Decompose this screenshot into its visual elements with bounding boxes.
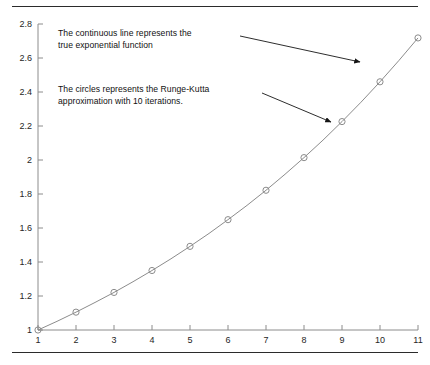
y-tick-label: 1.2 <box>6 291 32 301</box>
y-tick-label: 2.6 <box>6 53 32 63</box>
x-tick-label: 4 <box>140 335 164 345</box>
x-tick-label: 7 <box>254 335 278 345</box>
axes <box>38 24 418 330</box>
x-tick-label: 10 <box>368 335 392 345</box>
x-tick-label: 9 <box>330 335 354 345</box>
x-tick-label: 8 <box>292 335 316 345</box>
x-axis-ticks <box>38 325 418 330</box>
figure-container: 11.21.41.61.822.22.42.62.8 1234567891011… <box>0 0 430 365</box>
x-tick-label: 5 <box>178 335 202 345</box>
y-tick-label: 1 <box>6 325 32 335</box>
y-tick-label: 2.4 <box>6 87 32 97</box>
y-tick-label: 1.6 <box>6 223 32 233</box>
x-tick-label: 3 <box>102 335 126 345</box>
arrow-to-circle <box>262 93 331 122</box>
x-tick-label: 6 <box>216 335 240 345</box>
y-tick-label: 2 <box>6 155 32 165</box>
exponential-runge-kutta-plot <box>0 0 430 365</box>
annotation-circle-markers: The circles represents the Runge-Kutta a… <box>58 84 254 107</box>
y-tick-label: 1.8 <box>6 189 32 199</box>
y-tick-label: 1.4 <box>6 257 32 267</box>
x-tick-label: 1 <box>26 335 50 345</box>
arrow-to-line <box>240 36 360 62</box>
x-tick-label: 2 <box>64 335 88 345</box>
annotation-arrows <box>240 36 360 122</box>
runge-kutta-markers <box>35 35 421 333</box>
y-tick-label: 2.8 <box>6 19 32 29</box>
exponential-curve <box>38 38 418 330</box>
annotation-continuous-line: The continuous line represents the true … <box>58 28 248 51</box>
y-axis-ticks <box>38 24 43 330</box>
y-tick-label: 2.2 <box>6 121 32 131</box>
x-tick-label: 11 <box>406 335 430 345</box>
